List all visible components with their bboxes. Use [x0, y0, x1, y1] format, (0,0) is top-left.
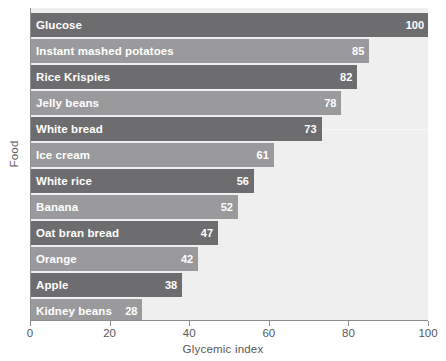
x-axis-tick-label: 40 [169, 327, 209, 339]
bar-row: Ice cream61 [31, 143, 428, 167]
x-axis-tick-label: 20 [90, 327, 130, 339]
x-axis-tick [348, 321, 349, 326]
bar-value-label: 52 [212, 195, 233, 219]
bar-value-label: 73 [296, 117, 317, 141]
bar-row: Apple38 [31, 273, 428, 297]
bar-category-label: White rice [36, 169, 92, 193]
bar-category-label: Apple [36, 273, 68, 297]
bar-row: Jelly beans78 [31, 91, 428, 115]
bar-category-label: Oat bran bread [36, 221, 119, 245]
plot-area: Glucose100Instant mashed potatoes85Rice … [30, 8, 428, 320]
bar-category-label: Kidney beans [36, 299, 112, 320]
bar-row: Instant mashed potatoes85 [31, 39, 428, 63]
bar-category-label: Banana [36, 195, 78, 219]
x-axis-tick-label: 100 [408, 327, 446, 339]
bar-row: Glucose100 [31, 13, 428, 37]
x-axis-line [30, 320, 428, 321]
bar-value-label: 85 [343, 39, 364, 63]
bar-row: Kidney beans28 [31, 299, 428, 320]
bar-row: White bread73 [31, 117, 428, 141]
x-axis-tick [269, 321, 270, 326]
bar [31, 13, 428, 37]
x-axis-title: Glycemic index [0, 343, 446, 355]
bar-category-label: Jelly beans [36, 91, 99, 115]
bar-row: Orange42 [31, 247, 428, 271]
bar-value-label: 78 [315, 91, 336, 115]
bar-category-label: Rice Krispies [36, 65, 110, 89]
bars-container: Glucose100Instant mashed potatoes85Rice … [31, 8, 428, 320]
bar-category-label: Glucose [36, 13, 82, 37]
bar-category-label: Ice cream [36, 143, 90, 167]
glycemic-index-bar-chart: Food Glucose100Instant mashed potatoes85… [0, 0, 446, 361]
bar-value-label: 82 [331, 65, 352, 89]
bar-value-label: 56 [228, 169, 249, 193]
x-axis-tick-label: 60 [249, 327, 289, 339]
x-axis-tick [428, 321, 429, 326]
x-axis-tick [189, 321, 190, 326]
bar-value-label: 42 [172, 247, 193, 271]
y-axis-title: Food [8, 124, 20, 184]
x-axis-tick-label: 80 [328, 327, 368, 339]
x-axis-tick [30, 321, 31, 326]
bar-row: Rice Krispies82 [31, 65, 428, 89]
bar-value-label: 47 [192, 221, 213, 245]
bar-row: Oat bran bread47 [31, 221, 428, 245]
bar-row: Banana52 [31, 195, 428, 219]
x-axis-tick-label: 0 [10, 327, 50, 339]
bar-category-label: Instant mashed potatoes [36, 39, 174, 63]
bar-row: White rice56 [31, 169, 428, 193]
bar-category-label: Orange [36, 247, 77, 271]
x-axis-tick [110, 321, 111, 326]
bar-value-label: 61 [248, 143, 269, 167]
bar-value-label: 38 [156, 273, 177, 297]
bar-value-label: 100 [403, 13, 424, 37]
bar-category-label: White bread [36, 117, 103, 141]
bar-value-label: 28 [116, 299, 137, 320]
